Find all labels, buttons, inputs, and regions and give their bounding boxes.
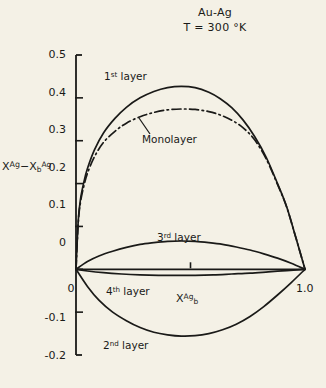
- annotation-leader-lines: [139, 118, 150, 134]
- curve-monolayer: [76, 109, 305, 269]
- chart-figure: Au-Ag T = 300 °K XAg−XbAg XAgb 0.5 0.4 0…: [0, 0, 326, 388]
- data-curves: [76, 86, 305, 336]
- curve-4th-layer: [76, 269, 305, 275]
- monolayer-leader-line: [139, 118, 150, 134]
- plot-canvas: [0, 0, 326, 388]
- curve-2nd-layer: [76, 269, 305, 336]
